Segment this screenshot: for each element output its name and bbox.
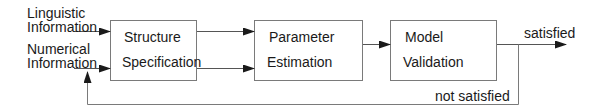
numerical-information-label: Numerical Information [27, 42, 97, 70]
linguistic-label-line1: Linguistic [27, 6, 97, 20]
linguistic-label-line2: Information [27, 20, 97, 34]
estimation-label: Estimation [267, 55, 332, 69]
model-label: Model [405, 30, 443, 44]
specification-label: Specification [122, 55, 201, 69]
linguistic-information-label: Linguistic Information [27, 6, 97, 34]
validation-label: Validation [403, 55, 463, 69]
numerical-label-line1: Numerical [27, 42, 97, 56]
structure-label: Structure [124, 30, 181, 44]
numerical-label-line2: Information [27, 56, 97, 70]
not-satisfied-label: not satisfied [435, 89, 510, 103]
parameter-label: Parameter [269, 30, 334, 44]
satisfied-label: satisfied [524, 26, 575, 40]
